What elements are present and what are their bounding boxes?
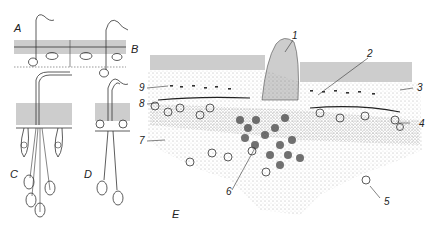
panel-label-c: C	[10, 168, 18, 180]
panel-label-d: D	[84, 168, 92, 180]
panel-c-cells	[16, 72, 72, 217]
callout-4: 4	[419, 118, 425, 129]
callout-9: 9	[139, 82, 145, 93]
illustration-drawing	[0, 0, 440, 234]
panel-label-b: B	[131, 43, 138, 55]
callout-2: 2	[367, 48, 373, 59]
panel-d-cells	[95, 79, 130, 205]
callout-8: 8	[139, 98, 145, 109]
callout-3: 3	[417, 82, 423, 93]
panel-e-tissue	[148, 38, 422, 215]
callout-6: 6	[226, 186, 232, 197]
callout-1: 1	[292, 30, 298, 41]
callout-5: 5	[384, 196, 390, 207]
callout-7: 7	[139, 135, 145, 146]
panel-label-e: E	[172, 208, 179, 220]
panel-label-a: A	[14, 22, 21, 34]
anatomical-figure: A B C D E 1 2 3 4 5 6 7 8 9	[0, 0, 440, 234]
panel-ab-epithelium	[14, 15, 128, 77]
